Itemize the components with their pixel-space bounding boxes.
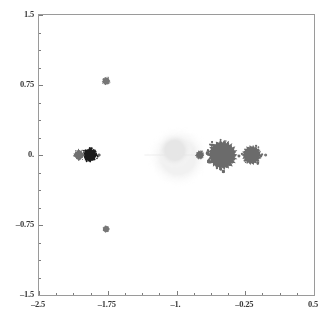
y-tick-minor	[39, 243, 41, 244]
x-tick-major	[314, 291, 315, 295]
y-tick-minor	[39, 260, 41, 261]
y-tick-minor	[39, 208, 41, 209]
x-tick-minor	[211, 293, 212, 295]
x-tick-major	[177, 291, 178, 295]
y-tick-minor	[39, 120, 41, 121]
x-tick-label: –1.	[170, 299, 180, 309]
x-tick-label: –0.25	[235, 299, 253, 309]
x-tick-label: 0.5	[308, 299, 318, 309]
y-tick-major	[39, 225, 43, 226]
x-tick-minor	[91, 293, 92, 295]
x-tick-minor	[125, 293, 126, 295]
x-tick-minor	[297, 293, 298, 295]
y-tick-label: 0.	[28, 149, 34, 159]
y-tick-major	[39, 85, 43, 86]
y-tick-label: –0.75	[16, 219, 34, 229]
y-tick-minor	[39, 68, 41, 69]
y-tick-minor	[39, 190, 41, 191]
x-tick-minor	[159, 293, 160, 295]
x-tick-minor	[262, 293, 263, 295]
y-tick-minor	[39, 173, 41, 174]
x-tick-minor	[228, 293, 229, 295]
y-tick-minor	[39, 138, 41, 139]
x-tick-major	[245, 291, 246, 295]
plot-frame	[38, 14, 315, 296]
y-tick-minor	[39, 278, 41, 279]
y-tick-major	[39, 295, 43, 296]
x-tick-major	[108, 291, 109, 295]
x-tick-label: –1.75	[98, 299, 116, 309]
y-tick-major	[39, 15, 43, 16]
plot-data-canvas	[39, 15, 314, 295]
y-tick-minor	[39, 103, 41, 104]
x-tick-minor	[73, 293, 74, 295]
x-tick-label: –2.5	[31, 299, 45, 309]
y-tick-minor	[39, 50, 41, 51]
x-tick-minor	[56, 293, 57, 295]
scatter-plot-figure: –2.5–1.75–1.–0.250.5 –1.5–0.750.0.751.5	[0, 0, 330, 321]
x-tick-minor	[280, 293, 281, 295]
y-tick-label: 0.75	[20, 79, 34, 89]
y-tick-major	[39, 155, 43, 156]
y-tick-minor	[39, 33, 41, 34]
x-tick-minor	[142, 293, 143, 295]
y-tick-label: –1.5	[20, 289, 34, 299]
y-tick-label: 1.5	[24, 9, 34, 19]
x-tick-minor	[194, 293, 195, 295]
